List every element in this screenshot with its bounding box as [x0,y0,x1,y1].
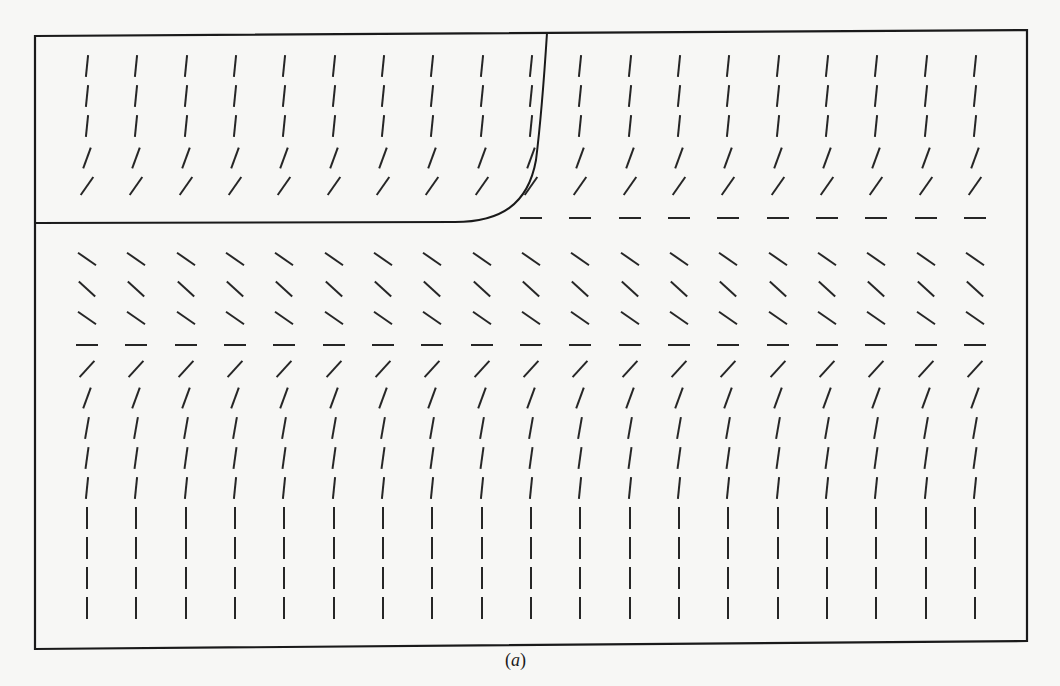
slope-segment [184,417,188,439]
slope-segment [966,312,984,325]
slope-segment [626,148,634,169]
slope-segment [226,253,244,266]
slope-segment [423,253,441,266]
slope-segment [777,85,779,107]
slope-segment [578,417,582,439]
slope-segment [969,177,982,195]
slope-segment [720,282,736,297]
slope-segment [573,361,588,377]
slope-segment [234,85,236,107]
slope-segment [917,253,935,266]
caption-label: a [511,650,520,670]
slope-segment [333,447,336,469]
slope-segment [522,312,540,325]
slope-segment [424,282,440,297]
slope-segment [968,361,983,377]
slope-segment [527,388,535,409]
slope-segment [920,177,933,195]
slope-segment [974,477,976,499]
slope-segment [722,177,735,195]
slope-segment [629,85,631,107]
slope-segment [283,447,286,469]
slope-segment [870,177,883,195]
slope-segment [177,312,195,325]
slope-segment [678,55,680,77]
slope-segment [381,417,385,439]
slope-segment [925,447,928,469]
slope-segment [473,312,491,325]
slope-segment [925,85,927,107]
slope-segment [579,447,582,469]
slope-segment [330,388,338,409]
slope-segment [874,417,878,439]
slope-segment [579,85,581,107]
slope-segment [481,55,483,77]
slope-field-segments [76,55,986,619]
slope-segment [478,148,486,169]
slope-segment [872,148,880,169]
slope-segment [529,417,533,439]
slope-segment [771,361,786,377]
slope-segment [481,85,483,107]
slope-segment [280,388,288,409]
slope-segment [875,55,877,77]
slope-segment [333,477,335,499]
slope-segment [135,447,138,469]
slope-segment [326,282,342,297]
slope-segment [283,85,285,107]
slope-segment [867,253,885,266]
slope-segment [670,253,688,266]
slope-segment [275,312,293,325]
slope-segment [621,253,639,266]
slope-segment [576,388,584,409]
slope-segment [231,388,239,409]
slope-segment [629,115,631,137]
slope-segment [624,177,637,195]
slope-segment [177,253,195,266]
slope-segment [623,361,638,377]
slope-segment [86,115,88,137]
slope-segment [777,477,779,499]
slope-segment [127,312,145,325]
slope-segment [132,148,140,169]
slope-segment [919,361,934,377]
slope-segment [867,312,885,325]
slope-field-figure [0,0,1060,686]
caption-close-paren: ) [520,650,526,670]
slope-segment [769,312,787,325]
slope-segment [675,148,683,169]
slope-segment [527,148,535,169]
slope-segment [227,282,243,297]
slope-segment [579,55,581,77]
slope-segment [130,177,143,195]
slope-segment [628,417,632,439]
figure-caption: (a) [505,650,526,671]
slope-segment [678,85,680,107]
slope-segment [629,447,632,469]
slope-segment [86,85,88,107]
slope-segment [925,55,927,77]
slope-segment [86,477,88,499]
slope-segment [473,253,491,266]
slope-segment [78,312,96,325]
slope-segment [826,85,828,107]
slope-segment [826,55,828,77]
slope-segment [283,115,285,137]
slope-segment [185,477,187,499]
slope-segment [967,282,983,297]
slope-segment [721,361,736,377]
slope-segment [132,388,140,409]
slope-segment [678,447,681,469]
slope-segment [431,85,433,107]
slope-segment [818,312,836,325]
slope-segment [278,177,291,195]
slope-segment [973,417,977,439]
slope-segment [574,177,587,195]
slope-segment [475,361,490,377]
slope-segment [135,477,137,499]
slope-segment [678,477,680,499]
slope-segment [672,361,687,377]
slope-segment [86,447,89,469]
slope-segment [629,55,631,77]
slope-segment [481,477,483,499]
